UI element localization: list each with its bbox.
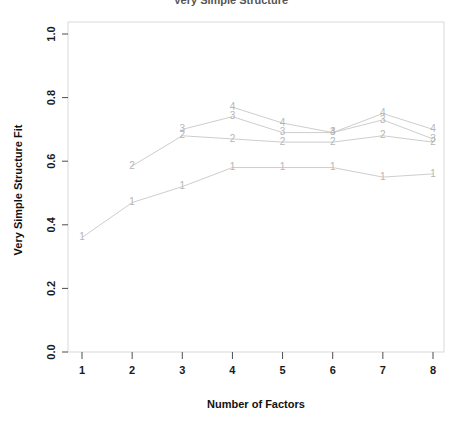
data-point-label-4: 4 [230,101,236,112]
y-tick-label: 0.6 [45,154,57,169]
data-point-label-1: 1 [280,161,286,172]
data-point-label-1: 1 [230,161,236,172]
data-point-label-1: 1 [129,196,135,207]
data-point-label-4: 4 [280,117,286,128]
data-point-label-1: 1 [380,171,386,182]
y-tick-label: 0.2 [45,281,57,296]
x-tick-label: 5 [280,364,286,376]
data-point-label-2: 2 [380,129,386,140]
x-tick-label: 1 [79,364,85,376]
data-point-label-3: 3 [230,110,236,121]
data-point-label-4: 4 [380,107,386,118]
data-point-label-3: 3 [180,123,186,134]
y-axis-ticks: 0.00.20.40.60.81.0 [45,26,68,359]
data-point-label-1: 1 [430,168,436,179]
y-tick-label: 1.0 [45,26,57,41]
data-point-label-2: 2 [280,136,286,147]
x-tick-label: 7 [380,364,386,376]
data-point-label-3: 3 [430,133,436,144]
x-tick-label: 6 [330,364,336,376]
x-tick-label: 8 [430,364,436,376]
data-point-label-1: 1 [180,180,186,191]
x-tick-label: 4 [229,364,236,376]
x-axis-title: Number of Factors [207,398,305,410]
x-tick-label: 2 [129,364,135,376]
data-point-label-1: 1 [79,231,85,242]
vss-chart: Very Simple Structure 0.00.20.40.60.81.0… [0,0,462,426]
y-tick-label: 0.4 [45,216,57,232]
data-point-label-2: 2 [230,133,236,144]
data-point-label-2: 2 [330,136,336,147]
data-point-label-4: 4 [330,126,336,137]
data-point-label-2: 2 [129,160,135,171]
y-axis-title: Very Simple Structure Fit [12,124,24,255]
plot-frame [68,22,444,352]
x-tick-label: 3 [179,364,185,376]
data-point-label-3: 3 [280,126,286,137]
data-point-label-1: 1 [330,161,336,172]
y-tick-label: 0.0 [45,344,57,359]
y-tick-label: 0.8 [45,90,57,105]
plot-area: 0.00.20.40.60.81.0 12345678 111111112222… [0,0,462,426]
data-point-label-4: 4 [430,123,436,134]
series-layer: 11111111222222233333344444 [79,101,436,242]
x-axis-ticks: 12345678 [79,352,436,376]
